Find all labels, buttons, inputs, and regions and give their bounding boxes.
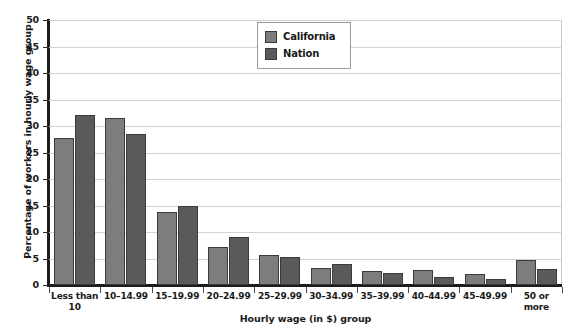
- bar-california-10: [516, 260, 536, 285]
- bar-california-2: [105, 118, 125, 285]
- y-tick-label: 20: [5, 173, 39, 184]
- bar-nation-7: [383, 273, 403, 285]
- legend-swatch-icon: [265, 48, 277, 60]
- y-tick-mark: [43, 73, 48, 74]
- legend-label: California: [283, 31, 335, 42]
- bar-california-6: [311, 268, 331, 285]
- bar-california-8: [413, 270, 433, 285]
- y-tick-label: 5: [5, 253, 39, 264]
- bar-california-9: [465, 274, 485, 285]
- y-tick-mark: [43, 285, 48, 286]
- x-axis-title: Hourly wage (in $) group: [49, 313, 562, 324]
- y-tick-label: 25: [5, 147, 39, 158]
- chart-legend: CaliforniaNation: [257, 22, 351, 69]
- legend-swatch-icon: [265, 31, 277, 43]
- y-tick-label: 0: [5, 279, 39, 290]
- y-tick-mark: [43, 153, 48, 154]
- y-tick-mark: [43, 47, 48, 48]
- y-tick-label: 40: [5, 67, 39, 78]
- bar-nation-2: [126, 134, 146, 285]
- legend-item-nation[interactable]: Nation: [265, 45, 343, 62]
- y-tick-label: 35: [5, 94, 39, 105]
- bar-nation-10: [537, 269, 557, 285]
- legend-item-california[interactable]: California: [265, 28, 343, 45]
- bar-california-7: [362, 271, 382, 285]
- y-tick-mark: [43, 126, 48, 127]
- bar-nation-6: [332, 264, 352, 285]
- y-tick-label: 50: [5, 14, 39, 25]
- x-tick-label: 50 ormore: [498, 291, 571, 313]
- y-tick-label: 10: [5, 226, 39, 237]
- bar-nation-1: [75, 115, 95, 285]
- y-tick-mark: [43, 20, 48, 21]
- y-tick-mark: [43, 259, 48, 260]
- y-tick-label: 30: [5, 120, 39, 131]
- bar-nation-5: [280, 257, 300, 285]
- bar-nation-9: [486, 279, 506, 285]
- legend-label: Nation: [283, 48, 319, 59]
- bar-nation-4: [229, 237, 249, 285]
- y-tick-label: 15: [5, 200, 39, 211]
- bar-california-3: [157, 212, 177, 285]
- y-tick-label: 45: [5, 41, 39, 52]
- y-tick-mark: [43, 232, 48, 233]
- bar-california-4: [208, 247, 228, 285]
- bar-chart: Percentage of workers in hourly wage gro…: [0, 0, 571, 335]
- bar-nation-8: [434, 277, 454, 285]
- bar-california-5: [259, 255, 279, 285]
- y-tick-mark: [43, 206, 48, 207]
- bar-nation-3: [178, 206, 198, 285]
- bar-california-1: [54, 138, 74, 285]
- y-tick-mark: [43, 100, 48, 101]
- y-tick-mark: [43, 179, 48, 180]
